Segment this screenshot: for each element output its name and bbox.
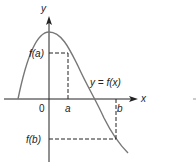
y-axis-label: y xyxy=(40,3,47,14)
origin-label: 0 xyxy=(39,103,45,114)
b-label: b xyxy=(117,103,123,114)
curve-label: y = f(x) xyxy=(89,77,121,88)
a-label: a xyxy=(65,103,71,114)
fa-label: f(a) xyxy=(29,48,44,59)
function-graph: y x 0 a b f(a) f(b) y = f(x) xyxy=(0,0,196,167)
x-axis-label: x xyxy=(140,93,147,104)
fb-label: f(b) xyxy=(26,134,41,145)
